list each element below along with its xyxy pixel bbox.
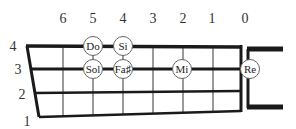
fret-number-5: 5 [90, 11, 97, 26]
note-mi: Mi [173, 60, 192, 79]
string-4 [26, 46, 241, 47]
fret-number-0: 0 [242, 11, 249, 26]
note-label: Sol [86, 63, 101, 75]
note-markers: Do Si Sol Fa♯ Mi Re [84, 37, 260, 79]
string-number-4: 4 [10, 39, 17, 54]
string-number-2: 2 [19, 87, 26, 102]
string-number-1: 1 [24, 114, 31, 129]
note-label: Si [118, 40, 127, 52]
fret-number-labels: 6 5 4 3 2 1 0 [60, 11, 249, 26]
note-label: Re [244, 63, 256, 75]
neck-left-edge [27, 46, 39, 117]
note-label: Mi [176, 63, 189, 75]
note-re: Re [241, 60, 260, 79]
note-do: Do [84, 37, 103, 56]
fret-lines [63, 46, 213, 116]
note-si: Si [114, 37, 133, 56]
note-sol: Sol [84, 60, 103, 79]
string-number-3: 3 [15, 62, 22, 77]
note-label: Do [86, 40, 100, 52]
string-1 [39, 111, 241, 117]
string-2 [35, 91, 241, 93]
fret-number-6: 6 [60, 11, 67, 26]
strings [26, 46, 241, 117]
fret-number-4: 4 [120, 11, 127, 26]
fret-number-1: 1 [209, 11, 216, 26]
fret-number-3: 3 [150, 11, 157, 26]
note-fa-sharp: Fa♯ [114, 60, 133, 79]
fretboard-diagram: 6 5 4 3 2 1 0 4 3 2 1 [0, 0, 296, 129]
note-label: Fa♯ [115, 63, 132, 75]
fret-number-2: 2 [180, 11, 187, 26]
